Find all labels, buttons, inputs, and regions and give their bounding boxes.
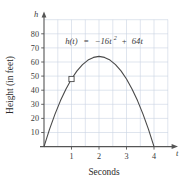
equation-term2: 64t [132, 36, 144, 46]
equation-annotation: h(t) = −16t 2 + 64t [65, 32, 143, 45]
x-tick-label: 4 [152, 152, 156, 161]
x-axis-title: Seconds [88, 167, 120, 177]
y-tick-labels: 10 20 30 40 50 60 70 80 [31, 30, 39, 138]
y-tick-label: 10 [31, 128, 39, 137]
marker-point-open-square [69, 76, 74, 81]
equation-lhs: h(t) [65, 36, 78, 46]
y-tick-label: 30 [31, 100, 39, 109]
equation-plus: + [121, 36, 127, 46]
y-axis [42, 12, 47, 147]
y-tick-label: 80 [31, 30, 39, 39]
equation-equals: = [83, 36, 89, 46]
y-axis-variable-label: h [34, 9, 38, 19]
x-axis-variable-label: t [176, 148, 179, 158]
y-tick-label: 70 [31, 44, 39, 53]
y-tick-label: 60 [31, 58, 39, 67]
equation-term1-exponent: 2 [114, 35, 117, 41]
y-tick-label: 20 [31, 114, 39, 123]
plot-area: 10 20 30 40 50 60 70 80 1 2 3 4 h t h(t)… [0, 0, 184, 179]
y-axis-title: Height (in feet) [5, 56, 16, 114]
y-tick-label: 40 [31, 86, 39, 95]
x-tick-label: 3 [124, 152, 128, 161]
x-tick-label: 1 [69, 152, 73, 161]
x-tick-labels: 1 2 3 4 [69, 152, 156, 161]
y-tick-label: 50 [31, 72, 39, 81]
x-tick-label: 2 [97, 152, 101, 161]
equation-term1-coefficient: −16t [95, 36, 112, 46]
parabola-chart-figure: 10 20 30 40 50 60 70 80 1 2 3 4 h t h(t)… [0, 0, 184, 179]
x-axis [40, 144, 178, 149]
